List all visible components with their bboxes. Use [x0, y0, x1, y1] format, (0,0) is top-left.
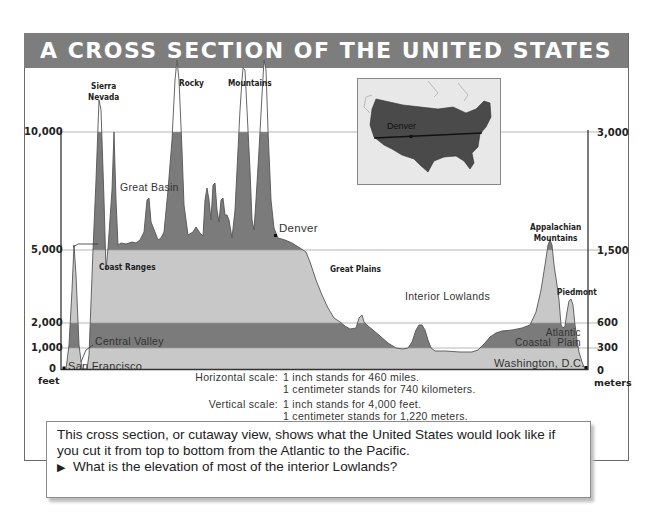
- right-tick-1500: 1,500: [597, 246, 629, 256]
- washington-marker: [585, 366, 588, 369]
- label-great-plains: Great Plains: [330, 264, 381, 275]
- denver-marker: [274, 234, 277, 237]
- vertical-scale-key: Vertical scale:: [150, 399, 283, 411]
- label-denver: Denver: [279, 223, 318, 235]
- label-rocky: Rocky: [179, 78, 204, 89]
- inset-map: Denver: [357, 78, 501, 185]
- label-appalachian-mountains: Appalachian Mountains: [530, 222, 581, 244]
- caption-question: ▶ What is the elevation of most of the i…: [57, 459, 580, 475]
- label-great-basin: Great Basin: [120, 182, 179, 193]
- left-axis-unit: feet: [38, 376, 60, 386]
- left-tick-0: 0: [49, 364, 56, 374]
- left-tick-1000: 1,000: [31, 343, 63, 353]
- label-washington-dc: Washington, D.C.: [494, 358, 585, 369]
- right-tick-0: 0: [597, 366, 604, 376]
- caption-box: This cross section, or cutaway view, sho…: [46, 421, 591, 498]
- san-francisco-marker: [63, 367, 66, 370]
- horizontal-scale-line-2: 1 centimeter stands for 740 kilometers.: [283, 384, 476, 396]
- map-denver-label: Denver: [387, 122, 416, 131]
- label-coast-ranges: Coast Ranges: [99, 262, 156, 273]
- label-sierra-nevada: Sierra Nevada: [88, 81, 119, 103]
- label-mountains: Mountains: [228, 78, 272, 89]
- horizontal-scale-key: Horizontal scale:: [150, 372, 283, 384]
- label-san-francisco: San Francisco: [68, 361, 142, 372]
- right-tick-300: 300: [597, 343, 618, 353]
- label-central-valley: Central Valley: [95, 336, 164, 347]
- caption-text: This cross section, or cutaway view, sho…: [57, 427, 580, 459]
- right-tick-3000: 3,000: [597, 128, 629, 138]
- question-text: What is the elevation of most of the int…: [73, 459, 397, 475]
- triangle-bullet-icon: ▶: [57, 459, 65, 475]
- label-interior-lowlands: Interior Lowlands: [405, 291, 490, 302]
- left-tick-10000: 10,000: [24, 127, 63, 137]
- us-map-silhouette: [358, 79, 500, 184]
- right-axis-unit: meters: [594, 378, 632, 388]
- label-atlantic-coastal-plain: Atlantic Coastal Plain: [515, 328, 581, 348]
- left-tick-2000: 2,000: [31, 318, 63, 328]
- left-tick-5000: 5,000: [31, 245, 63, 255]
- label-piedmont: Piedmont: [557, 287, 597, 298]
- horizontal-scale-line-1: 1 inch stands for 460 miles.: [283, 372, 419, 384]
- right-tick-600: 600: [597, 318, 618, 328]
- vertical-scale-line-1: 1 inch stands for 4,000 feet.: [283, 399, 421, 411]
- scale-legend: Horizontal scale: 1 inch stands for 460 …: [150, 372, 476, 422]
